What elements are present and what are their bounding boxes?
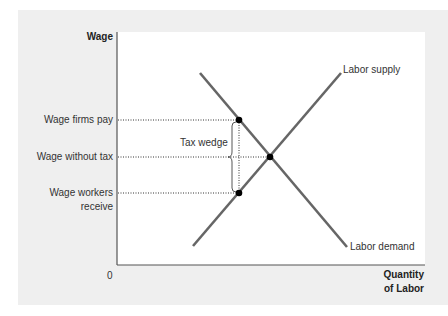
labor-demand-label: Labor demand (350, 241, 415, 252)
label-wage-workers-receive-1: Wage workers (20, 187, 113, 198)
label-wage-firms-pay: Wage firms pay (20, 114, 113, 125)
label-wage-workers-receive-2: receive (20, 201, 113, 212)
tax-wedge-brace-icon (228, 122, 236, 192)
label-wage-without-tax: Wage without tax (20, 151, 113, 162)
x-axis-label-line1: Quantity (350, 269, 424, 280)
labor-demand-curve (200, 73, 347, 247)
dot-workers-receive (236, 190, 243, 197)
dot-firms-pay (236, 117, 243, 124)
dot-equilibrium (267, 154, 274, 161)
labor-supply-label: Labor supply (343, 64, 400, 75)
origin-label: 0 (107, 270, 113, 281)
tax-wedge-label: Tax wedge (180, 137, 228, 148)
y-axis-label: Wage (40, 31, 113, 42)
x-axis-label-line2: of Labor (350, 283, 424, 294)
labor-supply-curve (193, 73, 341, 246)
